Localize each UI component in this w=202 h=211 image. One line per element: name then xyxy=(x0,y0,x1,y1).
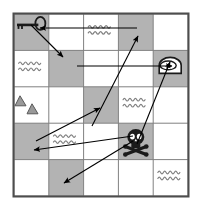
grid-cell-r1c5[interactable] xyxy=(153,14,188,50)
grid-cell-r5c1[interactable] xyxy=(14,160,49,196)
grid-cell-r4c1[interactable] xyxy=(14,123,49,159)
grid-cell-r4c3[interactable] xyxy=(84,123,119,159)
grid-cell-r2c3[interactable] xyxy=(84,50,119,86)
grid-cell-r3c5[interactable] xyxy=(153,87,188,123)
grid-cell-r5c3[interactable] xyxy=(84,160,119,196)
grid-cell-r5c2[interactable] xyxy=(49,160,84,196)
grid-cell-r2c4[interactable] xyxy=(118,50,153,86)
treasure-map-canvas xyxy=(0,0,202,211)
grid-cell-r1c4[interactable] xyxy=(118,14,153,50)
map-svg xyxy=(0,0,202,211)
grid-cell-r4c5[interactable] xyxy=(153,123,188,159)
grid-cell-r2c2[interactable] xyxy=(49,50,84,86)
cave-icon xyxy=(159,57,181,73)
grid-cell-r5c4[interactable] xyxy=(118,160,153,196)
grid-cells-layer xyxy=(14,14,188,196)
grid-cell-r3c3[interactable] xyxy=(84,87,119,123)
grid-cell-r1c2[interactable] xyxy=(49,14,84,50)
grid-cell-r3c2[interactable] xyxy=(49,87,84,123)
